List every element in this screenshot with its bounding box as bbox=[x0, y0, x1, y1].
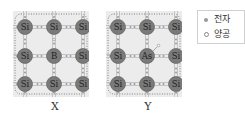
legend: 전자 양공 bbox=[197, 10, 245, 44]
panel-x-lattice: SiSiSiSiBSiSiSiSi bbox=[13, 11, 89, 97]
hole-circle-icon bbox=[204, 32, 209, 37]
electron-dot-icon bbox=[204, 18, 208, 22]
panel-y-lattice: SiSiSiSiAsSiSiSiSi bbox=[106, 11, 182, 97]
legend-item-hole: 양공 bbox=[198, 26, 244, 41]
svg-text:Si: Si bbox=[21, 79, 30, 89]
lattice-y-svg: SiSiSiSiAsSiSiSiSi bbox=[106, 11, 182, 97]
svg-text:Si: Si bbox=[114, 22, 123, 32]
svg-text:Si: Si bbox=[21, 51, 30, 61]
svg-text:Si: Si bbox=[172, 51, 181, 61]
svg-text:Si: Si bbox=[50, 79, 59, 89]
svg-text:Si: Si bbox=[172, 79, 181, 89]
svg-text:Si: Si bbox=[50, 22, 59, 32]
legend-label-hole: 양공 bbox=[214, 27, 230, 40]
legend-item-electron: 전자 bbox=[198, 11, 244, 26]
svg-text:Si: Si bbox=[143, 79, 152, 89]
svg-text:Si: Si bbox=[79, 22, 88, 32]
svg-text:Si: Si bbox=[114, 79, 123, 89]
svg-text:Si: Si bbox=[172, 22, 181, 32]
svg-text:Si: Si bbox=[143, 22, 152, 32]
svg-text:Si: Si bbox=[21, 22, 30, 32]
svg-text:B: B bbox=[51, 51, 57, 61]
panel-y-caption: Y bbox=[138, 100, 158, 113]
lattice-x-svg: SiSiSiSiBSiSiSiSi bbox=[13, 11, 89, 97]
legend-label-electron: 전자 bbox=[214, 12, 230, 25]
svg-text:Si: Si bbox=[79, 51, 88, 61]
svg-text:Si: Si bbox=[114, 51, 123, 61]
svg-text:Si: Si bbox=[79, 79, 88, 89]
panel-x-caption: X bbox=[45, 100, 65, 113]
svg-text:As: As bbox=[141, 51, 153, 61]
